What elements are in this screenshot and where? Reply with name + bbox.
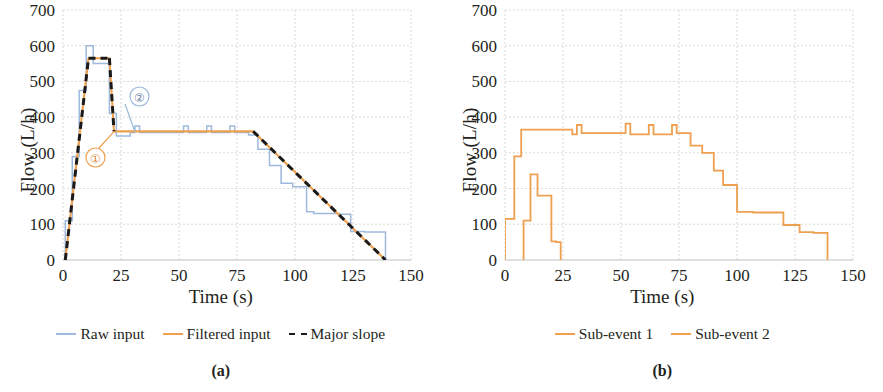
legend-label-filtered-input: Filtered input	[187, 325, 271, 343]
svg-text:150: 150	[398, 266, 424, 285]
legend-item-raw-input[interactable]: Raw input	[56, 325, 144, 343]
svg-text:0: 0	[500, 266, 509, 285]
x-axis-label-a: Time (s)	[0, 286, 442, 308]
svg-text:600: 600	[471, 37, 497, 56]
legend-b: Sub-event 1 Sub-event 2	[442, 325, 883, 343]
svg-text:75: 75	[229, 266, 246, 285]
legend-swatch-filtered-input	[163, 333, 183, 335]
legend-swatch-sub-event-1	[555, 333, 575, 335]
panel-caption-b: (b)	[442, 362, 883, 380]
legend-swatch-major-slope	[289, 333, 307, 335]
legend-swatch-raw-input	[56, 333, 76, 335]
x-axis-label-b: Time (s)	[442, 286, 883, 308]
legend-item-sub-event-1[interactable]: Sub-event 1	[555, 325, 653, 343]
svg-text:50: 50	[612, 266, 629, 285]
svg-text:125: 125	[340, 266, 366, 285]
legend-label-major-slope: Major slope	[311, 325, 385, 343]
series-raw-input	[65, 46, 385, 260]
callout-1[interactable]: ①	[86, 131, 114, 167]
y-axis-label-a: Flow (L/h)	[17, 70, 39, 230]
legend-swatch-sub-event-2	[671, 333, 691, 335]
series-major-slope	[65, 58, 385, 260]
svg-text:0: 0	[488, 251, 497, 270]
svg-text:150: 150	[840, 266, 866, 285]
plot-area-b: Flow (L/h)	[442, 0, 883, 300]
legend-label-raw-input: Raw input	[80, 325, 144, 343]
svg-text:0: 0	[59, 266, 68, 285]
callout-1-label: ①	[90, 153, 101, 165]
chart-svg-b: 700 600 500 400 300 200 100 0 0 25 50 75…	[442, 0, 883, 300]
callout-2[interactable]: ②	[125, 87, 149, 132]
series-sub-event-1	[505, 124, 828, 260]
panel-caption-a: (a)	[0, 362, 442, 380]
series-filtered-input	[65, 58, 385, 260]
legend-item-major-slope[interactable]: Major slope	[289, 325, 385, 343]
figure-container: Flow (L/h)	[0, 0, 883, 392]
svg-text:700: 700	[30, 1, 56, 20]
legend-label-sub-event-2: Sub-event 2	[695, 325, 769, 343]
legend-a: Raw input Filtered input Major slope	[0, 325, 442, 343]
chart-svg-a: 700 600 500 400 300 200 100 0 0 25 50 75…	[0, 0, 441, 300]
plot-area-a: Flow (L/h)	[0, 0, 441, 300]
svg-text:25: 25	[113, 266, 130, 285]
panel-b: Flow (L/h)	[442, 0, 883, 392]
svg-text:0: 0	[47, 251, 56, 270]
legend-item-sub-event-2[interactable]: Sub-event 2	[671, 325, 769, 343]
gridlines-a	[63, 10, 411, 260]
svg-text:75: 75	[670, 266, 687, 285]
legend-item-filtered-input[interactable]: Filtered input	[163, 325, 271, 343]
x-tick-labels-b: 0 25 50 75 100 125 150	[500, 266, 865, 285]
panel-a: Flow (L/h)	[0, 0, 442, 392]
svg-text:600: 600	[30, 37, 56, 56]
svg-text:100: 100	[282, 266, 308, 285]
callout-2-label: ②	[134, 92, 145, 104]
svg-text:125: 125	[782, 266, 808, 285]
svg-text:700: 700	[471, 1, 497, 20]
x-tick-labels-a: 0 25 50 75 100 125 150	[59, 266, 424, 285]
svg-text:25: 25	[554, 266, 571, 285]
legend-label-sub-event-1: Sub-event 1	[579, 325, 653, 343]
svg-text:100: 100	[724, 266, 750, 285]
series-sub-event-2	[523, 174, 560, 260]
gridlines-b	[505, 10, 853, 260]
svg-text:50: 50	[171, 266, 188, 285]
y-axis-label-b: Flow (L/h)	[459, 70, 481, 230]
